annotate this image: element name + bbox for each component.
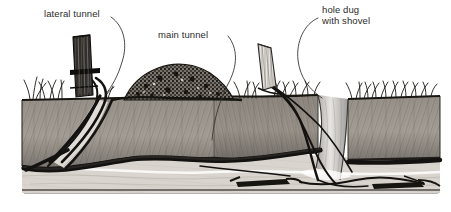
label-hole-dug-with-shovel: hole dugwith shovel [322, 4, 370, 26]
leader-lateral-tunnel [106, 17, 125, 94]
label-main-tunnel: main tunnel [158, 29, 208, 40]
soil-mound [112, 64, 242, 100]
left-stake [70, 35, 100, 97]
label-lateral-tunnel: lateral tunnel [44, 8, 100, 19]
label-hole-dug-line-1: hole dug [322, 4, 359, 15]
label-hole-dug-line-2: with shovel [322, 15, 370, 26]
leader-hole-dug [298, 18, 322, 98]
right-stake [258, 44, 282, 94]
diagram-illustration [0, 0, 451, 212]
tunnel-diagram-figure: lateral tunnel main tunnel hole dugwith … [0, 0, 451, 212]
